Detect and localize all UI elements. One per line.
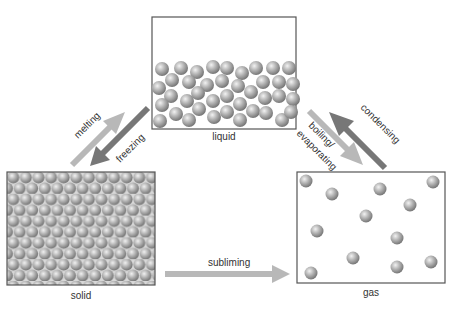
liquid-label: liquid xyxy=(212,131,235,142)
gas-box xyxy=(297,172,445,283)
condensing-label: condensing xyxy=(359,102,403,146)
solid-label: solid xyxy=(71,290,92,301)
solid-box xyxy=(7,172,155,285)
gas-label: gas xyxy=(363,287,379,298)
states-of-matter-diagram: melting freezing boiling/ evaporating co… xyxy=(0,0,464,316)
subliming-label: subliming xyxy=(208,257,250,268)
liquid-box xyxy=(152,17,300,129)
